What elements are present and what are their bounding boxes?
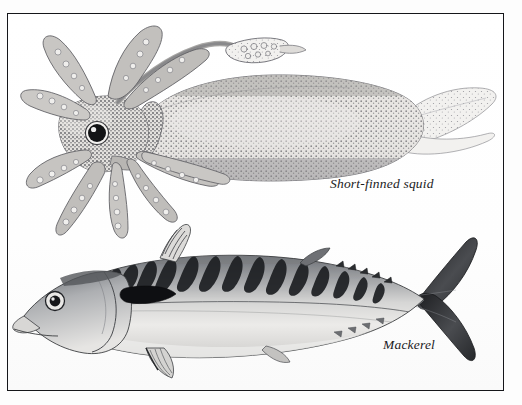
caption-short-finned-squid: Short-finned squid [330,176,434,192]
illustration-plate: Short-finned squid Mackerel [0,0,522,405]
frame-inner-shade [8,14,503,390]
plate-frame [7,13,504,391]
caption-mackerel: Mackerel [383,337,435,353]
